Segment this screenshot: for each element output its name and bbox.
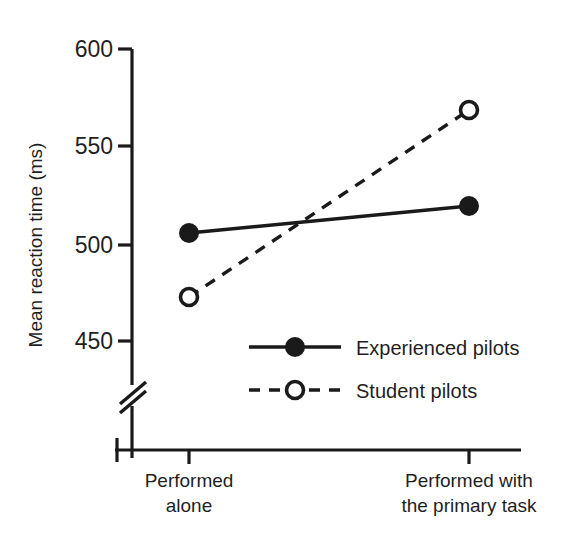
chart-background (0, 0, 576, 539)
data-point-experienced-performed-with-primary-task (459, 196, 479, 216)
legend-label-experienced-pilots: Experienced pilots (356, 337, 519, 359)
x-category-label-2-line2: the primary task (401, 495, 537, 516)
legend-marker-open-circle (287, 382, 304, 399)
legend-marker-filled-circle (285, 337, 305, 357)
legend-label-student-pilots: Student pilots (356, 380, 477, 402)
y-tick-label-600: 600 (75, 36, 113, 62)
x-category-label-2-line1: Performed with (405, 470, 533, 491)
data-point-experienced-performed-alone (179, 223, 199, 243)
y-tick-label-450: 450 (75, 328, 113, 354)
x-category-label-1-line2: alone (166, 495, 213, 516)
chart-figure: 600 550 500 450 Mean reaction time (ms) … (0, 0, 576, 539)
y-axis-title: Mean reaction time (ms) (25, 143, 46, 348)
line-chart: 600 550 500 450 Mean reaction time (ms) … (0, 0, 576, 539)
y-tick-label-500: 500 (75, 232, 113, 258)
data-point-student-performed-with-primary-task (461, 102, 478, 119)
y-tick-label-550: 550 (75, 133, 113, 159)
x-category-label-1-line1: Performed (145, 470, 234, 491)
data-point-student-performed-alone (181, 289, 198, 306)
